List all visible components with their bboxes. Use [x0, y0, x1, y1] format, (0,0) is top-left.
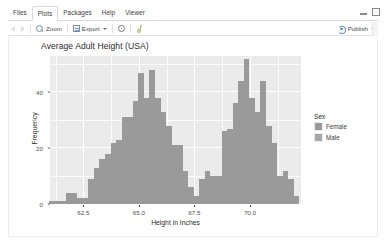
export-button[interactable]: Export [70, 23, 110, 35]
pane-tab-bar: Files Plots Packages Help Viewer [8, 6, 378, 21]
rstudio-plots-pane: Files Plots Packages Help Viewer Zoom [0, 0, 386, 250]
back-arrow-icon [11, 26, 15, 32]
toolbar-separator-3 [112, 24, 113, 33]
y-tick-label: 0 [40, 201, 43, 208]
x-tick-mark [250, 205, 251, 207]
legend-item-male[interactable]: Male [314, 133, 374, 142]
legend-item-female[interactable]: Female [314, 122, 374, 131]
magnifier-icon [36, 25, 44, 33]
legend-title: Sex [314, 113, 374, 120]
y-tick-label: 40 [36, 89, 43, 96]
gear-icon [118, 25, 125, 32]
pane-scrollbar[interactable] [372, 22, 378, 36]
x-tick-mark [139, 205, 140, 207]
toolbar-separator-1 [30, 24, 31, 33]
histogram-bar [294, 196, 300, 204]
legend-swatch-male [315, 134, 322, 141]
maximize-icon [372, 8, 380, 16]
forward-arrow-icon [21, 26, 25, 32]
x-tick-mark [194, 205, 195, 207]
y-tick-mark [48, 92, 50, 93]
tab-packages[interactable]: Packages [58, 6, 96, 21]
remove-plot-button[interactable] [115, 23, 128, 35]
next-plot-button[interactable] [18, 23, 28, 35]
export-button-label: Export [82, 25, 100, 32]
y-tick-mark [48, 204, 50, 205]
tab-viewer[interactable]: Viewer [120, 6, 150, 21]
tab-files[interactable]: Files [8, 6, 32, 21]
minimize-icon [360, 13, 367, 15]
plots-toolbar: Zoom Export Publish [8, 22, 378, 36]
export-icon [73, 25, 80, 32]
x-tick-label: 62.5 [77, 209, 89, 216]
previous-plot-button[interactable] [8, 23, 18, 35]
histogram-bars [50, 56, 301, 204]
x-tick-mark [83, 205, 84, 207]
chart-title: Average Adult Height (USA) [41, 41, 149, 51]
x-tick-label: 65.0 [133, 209, 145, 216]
chevron-down-icon [103, 28, 107, 30]
publish-icon [338, 25, 346, 33]
tab-help[interactable]: Help [97, 6, 120, 21]
zoom-button-label: Zoom [46, 25, 62, 32]
clear-all-plots-button[interactable] [133, 23, 147, 35]
x-tick-label: 70.0 [244, 209, 256, 216]
legend-key-female [314, 122, 323, 131]
legend-swatch-female [315, 123, 322, 130]
chart-legend: Sex Female Male [314, 113, 374, 144]
toolbar-separator-2 [67, 24, 68, 33]
x-axis-label: Height in Inches [50, 219, 301, 226]
plot-output-area[interactable]: Average Adult Height (USA) 02040 62.565.… [8, 37, 378, 237]
publish-button-label: Publish [348, 25, 368, 32]
legend-label-male: Male [326, 134, 340, 141]
legend-key-male [314, 133, 323, 142]
minimize-pane-button[interactable] [359, 7, 368, 16]
toolbar-separator-4 [130, 24, 131, 33]
x-tick-label: 67.5 [188, 209, 200, 216]
broom-icon [136, 25, 144, 33]
y-tick-mark [48, 148, 50, 149]
tab-plots[interactable]: Plots [32, 6, 59, 21]
maximize-pane-button[interactable] [371, 7, 380, 16]
zoom-button[interactable]: Zoom [33, 23, 65, 35]
window-controls [359, 7, 380, 16]
y-axis-label: Frequency [31, 99, 38, 159]
legend-label-female: Female [326, 123, 347, 130]
plot-panel [50, 56, 301, 204]
